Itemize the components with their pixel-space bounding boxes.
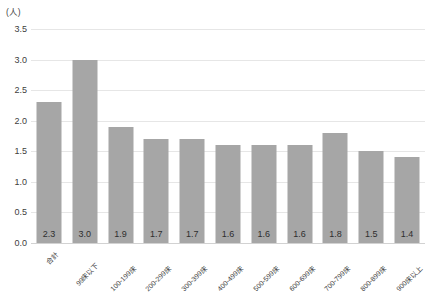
bar-value-label: 1.5 bbox=[359, 230, 384, 239]
y-axis-tick-label: 0.0 bbox=[14, 239, 27, 248]
bar-slot: 3.0 bbox=[67, 29, 103, 243]
x-axis-tick-label-text: 100-199床 bbox=[109, 264, 137, 292]
axis-baseline: 0.0 bbox=[31, 243, 425, 244]
bar[interactable]: 1.4 bbox=[395, 157, 420, 243]
x-axis-tick-label-text: 800-899床 bbox=[359, 264, 387, 292]
bar[interactable]: 3.0 bbox=[72, 60, 97, 243]
y-axis-tick-label: 0.5 bbox=[14, 208, 27, 217]
x-axis-tick-label-text: 400-499床 bbox=[216, 264, 244, 292]
bar[interactable]: 2.3 bbox=[36, 102, 61, 243]
x-axis-tick-label: 400-499床 bbox=[234, 247, 262, 275]
y-axis-tick-label: 1.5 bbox=[14, 147, 27, 156]
bar-slot: 2.3 bbox=[31, 29, 67, 243]
x-axis-tick-label-text: 200-299床 bbox=[144, 264, 172, 292]
bar[interactable]: 1.9 bbox=[108, 127, 133, 243]
bar-value-label: 1.4 bbox=[395, 230, 420, 239]
bar[interactable]: 1.6 bbox=[215, 145, 240, 243]
bar-value-label: 1.6 bbox=[251, 230, 276, 239]
x-axis-tick-label-text: 合計 bbox=[45, 251, 60, 266]
x-axis-tick-label: 800-899床 bbox=[377, 247, 405, 275]
bar-chart: (人) 0.00.51.01.52.02.53.03.5 2.33.01.91.… bbox=[0, 0, 446, 298]
x-axis-tick-label: 300-399床 bbox=[198, 247, 226, 275]
y-axis-tick-label: 3.5 bbox=[14, 25, 27, 34]
x-axis-tick-label-text: 900床以上 bbox=[395, 264, 423, 292]
bar-slot: 1.6 bbox=[282, 29, 318, 243]
bar-value-label: 1.6 bbox=[215, 230, 240, 239]
x-axis-tick-label: 700-799床 bbox=[341, 247, 369, 275]
x-axis-tick-label-text: 500-599床 bbox=[252, 264, 280, 292]
bar-slot: 1.7 bbox=[138, 29, 174, 243]
x-axis-tick-label-text: 300-399床 bbox=[180, 264, 208, 292]
bar-value-label: 1.8 bbox=[323, 230, 348, 239]
bar-slot: 1.7 bbox=[174, 29, 210, 243]
x-axis-tick-label: 100-199床 bbox=[126, 247, 154, 275]
x-axis-tick-label: 500-599床 bbox=[269, 247, 297, 275]
bar-slot: 1.8 bbox=[318, 29, 354, 243]
bar[interactable]: 1.6 bbox=[287, 145, 312, 243]
y-axis-tick-label: 1.0 bbox=[14, 177, 27, 186]
bar[interactable]: 1.7 bbox=[144, 139, 169, 243]
bar[interactable]: 1.6 bbox=[251, 145, 276, 243]
bar-value-label: 3.0 bbox=[72, 230, 97, 239]
x-axis-tick-label: 900床以上 bbox=[413, 247, 441, 275]
x-axis-tick-label-text: 600-699床 bbox=[288, 264, 316, 292]
x-axis-tick-label-text: 700-799床 bbox=[324, 264, 352, 292]
y-axis-tick-label: 3.0 bbox=[14, 55, 27, 64]
bar-slot: 1.4 bbox=[389, 29, 425, 243]
bar-value-label: 2.3 bbox=[36, 230, 61, 239]
bar[interactable]: 1.8 bbox=[323, 133, 348, 243]
y-axis-unit-label: (人) bbox=[6, 5, 21, 17]
bar-value-label: 1.6 bbox=[287, 230, 312, 239]
bar-slot: 1.9 bbox=[103, 29, 139, 243]
x-axis-labels: 合計99床以下100-199床200-299床300-399床400-499床5… bbox=[31, 245, 425, 298]
x-axis-tick-label-text: 99床以下 bbox=[74, 262, 99, 287]
bar-slot: 1.5 bbox=[353, 29, 389, 243]
y-axis-tick-label: 2.5 bbox=[14, 86, 27, 95]
x-axis-tick-label: 合計 bbox=[49, 247, 64, 262]
bar-slot: 1.6 bbox=[246, 29, 282, 243]
x-axis-tick-label: 99床以下 bbox=[89, 247, 114, 272]
bar-series: 2.33.01.91.71.71.61.61.61.81.51.4 bbox=[31, 29, 425, 243]
x-axis-tick-label: 600-699床 bbox=[305, 247, 333, 275]
bar-slot: 1.6 bbox=[210, 29, 246, 243]
bar[interactable]: 1.5 bbox=[359, 151, 384, 243]
x-axis-tick-label: 200-299床 bbox=[162, 247, 190, 275]
plot-area: 0.00.51.01.52.02.53.03.5 2.33.01.91.71.7… bbox=[31, 29, 425, 243]
bar[interactable]: 1.7 bbox=[180, 139, 205, 243]
y-axis-tick-label: 2.0 bbox=[14, 116, 27, 125]
bar-value-label: 1.7 bbox=[144, 230, 169, 239]
bar-value-label: 1.9 bbox=[108, 230, 133, 239]
bar-value-label: 1.7 bbox=[180, 230, 205, 239]
